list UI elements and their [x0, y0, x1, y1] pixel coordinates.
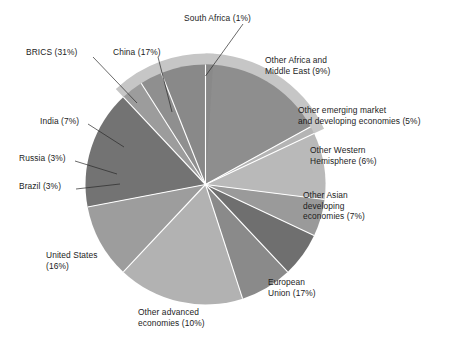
slice-label-other-emerging: Other emerging market and developing eco…	[298, 105, 421, 126]
slice-label-india: India (7%)	[40, 116, 79, 127]
slice-label-other-western: Other Western Hemisphere (6%)	[310, 145, 377, 166]
slice-label-united-states: United States (16%)	[46, 250, 98, 271]
slice-label-other-africa-me: Other Africa and Middle East (9%)	[265, 55, 330, 76]
pie-chart-figure: South Africa (1%) BRICS (31%) China (17%…	[0, 0, 471, 351]
slice-label-russia: Russia (3%)	[19, 153, 66, 164]
slice-label-other-advanced: Other advanced economies (10%)	[138, 307, 205, 328]
slice-label-brics: BRICS (31%)	[26, 47, 77, 58]
slice-label-china: China (17%)	[113, 47, 161, 58]
slice-label-european-union: European Union (17%)	[268, 277, 316, 298]
slice-label-brazil: Brazil (3%)	[19, 181, 61, 192]
slice-label-other-asian: Other Asian developing economies (7%)	[303, 190, 365, 222]
slice-label-south-africa: South Africa (1%)	[184, 13, 251, 24]
